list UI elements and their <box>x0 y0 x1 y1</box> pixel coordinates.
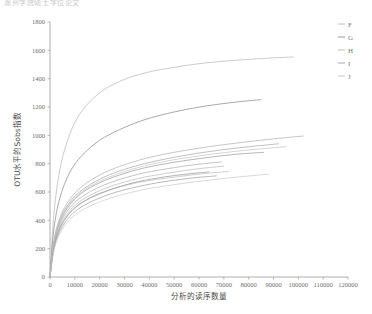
y-tick-label: 1800 <box>32 18 45 25</box>
legend-label-f: F <box>348 21 352 29</box>
x-tick-label: 110000 <box>314 281 333 288</box>
x-axis-title: 分析的读序数量 <box>171 291 227 301</box>
x-tick-label: 100000 <box>289 281 309 288</box>
x-tick-label: 20000 <box>92 281 108 288</box>
curve-j <box>50 171 229 277</box>
curve-extra-3 <box>50 176 216 277</box>
x-tick-label: 0 <box>48 281 51 288</box>
x-tick-label: 60000 <box>191 281 207 288</box>
y-tick-label: 1400 <box>32 75 45 82</box>
x-tick-label: 120000 <box>338 281 358 288</box>
y-axis-title: OTU水平的Sobs指数 <box>12 112 22 186</box>
y-tick-label: 600 <box>35 188 45 195</box>
legend-label-h: H <box>348 47 353 55</box>
chart-page: 滁州学院硕士学位论文 02004006008001000120014001600… <box>0 0 372 314</box>
curve-f <box>50 57 293 277</box>
curve-extra-4 <box>50 147 286 277</box>
legend-label-i: I <box>348 60 351 68</box>
legend-label-g: G <box>348 34 353 42</box>
y-tick-label: 0 <box>42 273 45 280</box>
y-tick-label: 200 <box>35 245 45 252</box>
x-tick-label: 50000 <box>166 281 182 288</box>
y-tick-label: 1200 <box>32 103 45 110</box>
x-tick-label: 10000 <box>67 281 83 288</box>
y-tick-label: 1000 <box>32 132 45 139</box>
curve-i <box>50 152 264 277</box>
curve-g <box>50 100 261 277</box>
curve-extra-5 <box>50 172 209 277</box>
x-tick-label: 40000 <box>141 281 157 288</box>
x-tick-label: 90000 <box>265 281 281 288</box>
legend-label-j: J <box>348 73 351 81</box>
y-tick-label: 800 <box>35 160 45 167</box>
rarefaction-chart: 0200400600800100012001400160018000100002… <box>0 0 372 314</box>
x-tick-label: 70000 <box>216 281 232 288</box>
y-tick-label: 400 <box>35 217 45 224</box>
x-tick-label: 30000 <box>116 281 132 288</box>
y-tick-label: 1600 <box>32 47 45 54</box>
x-tick-label: 80000 <box>241 281 257 288</box>
